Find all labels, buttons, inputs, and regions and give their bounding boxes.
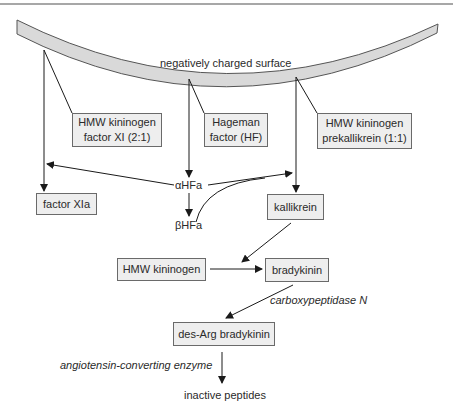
complex-box-kininogen-factor-xi: HMW kininogen factor XI (2:1) bbox=[72, 113, 162, 147]
arrow-alpha-to-factor-xi bbox=[47, 164, 174, 185]
surface-label: negatively charged surface bbox=[160, 57, 291, 70]
arrow-kallikrein-to-cleavage bbox=[242, 223, 291, 262]
curve-beta-to-prekallikrein bbox=[196, 178, 265, 222]
des-arg-bradykinin-label: des-Arg bradykinin bbox=[178, 327, 270, 342]
beta-hfa-label: βHFa bbox=[175, 219, 202, 232]
kallikrein-label: kallikrein bbox=[274, 200, 317, 215]
complex-line1: HMW kininogen bbox=[326, 116, 404, 131]
complex-line2: factor (HF) bbox=[210, 130, 263, 145]
complex-line2: prekallikrein (1:1) bbox=[322, 131, 406, 146]
complex-line2: factor XI (2:1) bbox=[84, 130, 151, 145]
hmw-kininogen-label: HMW kininogen bbox=[123, 262, 201, 277]
complex-box-kininogen-prekallikrein: HMW kininogen prekallikrein (1:1) bbox=[317, 113, 412, 149]
inactive-peptides-label: inactive peptides bbox=[184, 389, 266, 402]
factor-xia-label: factor XIa bbox=[43, 197, 90, 212]
negatively-charged-surface-band bbox=[17, 20, 438, 87]
connector-line bbox=[296, 77, 317, 113]
kallikrein-box: kallikrein bbox=[267, 194, 324, 220]
factor-xia-box: factor XIa bbox=[36, 193, 97, 215]
carboxypeptidase-label: carboxypeptidase N bbox=[270, 294, 367, 307]
alpha-hfa-label: αHFa bbox=[175, 179, 202, 192]
bradykinin-label: bradykinin bbox=[272, 263, 322, 278]
ace-label: angiotensin-converting enzyme bbox=[60, 359, 212, 372]
hmw-kininogen-box: HMW kininogen bbox=[117, 258, 206, 281]
complex-line1: Hageman bbox=[212, 115, 260, 130]
des-arg-bradykinin-box: des-Arg bradykinin bbox=[173, 322, 275, 346]
bradykinin-box: bradykinin bbox=[265, 258, 329, 282]
connector-line bbox=[44, 50, 72, 113]
complex-box-hageman-factor: Hageman factor (HF) bbox=[204, 113, 268, 147]
complex-line1: HMW kininogen bbox=[78, 115, 156, 130]
arrow-alpha-to-prekallikrein bbox=[208, 173, 292, 185]
